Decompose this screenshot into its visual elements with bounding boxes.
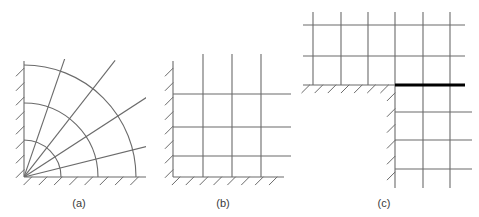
panel-a-caption: (a) xyxy=(72,197,85,209)
panel-c-caption: (c) xyxy=(378,197,391,209)
figure-container: (a) (b) (c) xyxy=(0,0,479,217)
figure-canvas: (a) (b) (c) xyxy=(0,0,479,217)
figure-background xyxy=(0,0,479,217)
panel-b-caption: (b) xyxy=(216,197,229,209)
